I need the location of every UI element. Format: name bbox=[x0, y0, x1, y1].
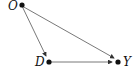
node-d bbox=[46, 59, 51, 64]
node-label-y: Y bbox=[123, 56, 131, 68]
node-label-o: O bbox=[8, 0, 18, 12]
node-o bbox=[19, 2, 24, 7]
node-label-d: D bbox=[35, 56, 45, 68]
edge-o-d bbox=[22, 6, 46, 56]
node-y bbox=[115, 59, 120, 64]
edge-o-y bbox=[22, 6, 114, 58]
dag-canvas bbox=[0, 0, 134, 70]
